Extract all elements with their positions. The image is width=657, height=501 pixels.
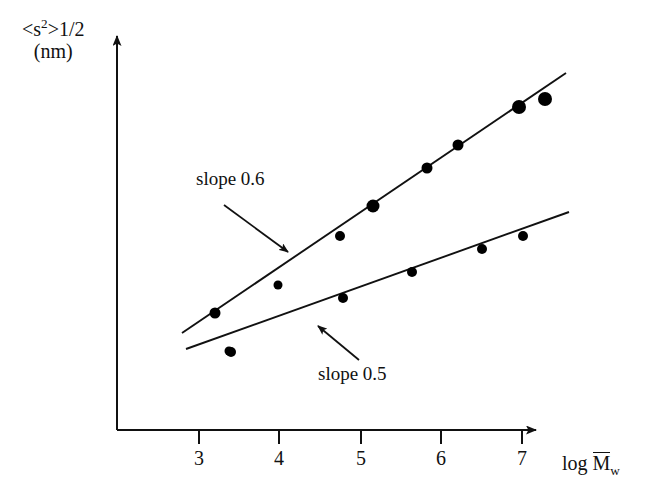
- data-point: [422, 163, 433, 174]
- data-point: [512, 100, 526, 114]
- x-tick-label-3: 3: [186, 447, 212, 469]
- figure-container: <s2>1/2 (nm) log Mw 3 4 5 6 7 slope 0.6 …: [0, 0, 657, 501]
- y-axis-label: <s2>1/2 (nm): [22, 18, 85, 63]
- y-axis-label-main: <s2>1/2: [22, 18, 85, 40]
- data-point: [274, 281, 283, 290]
- data-series-slope-0-6: [210, 92, 553, 356]
- x-tick-label-6: 6: [428, 447, 454, 469]
- data-point: [538, 92, 552, 106]
- data-point: [453, 140, 464, 151]
- trend-line-slope-0-5: [186, 212, 569, 349]
- data-point: [367, 200, 380, 213]
- annotation-slope-0-6: slope 0.6: [196, 168, 265, 189]
- data-point: [518, 231, 528, 241]
- data-point: [338, 293, 348, 303]
- x-axis-label-prefix: log: [562, 452, 593, 474]
- x-axis-ticks: [199, 430, 522, 444]
- y-axis-label-exponent: 2: [41, 16, 48, 31]
- annotation-arrow-lower: [318, 326, 359, 360]
- x-tick-label-7: 7: [509, 447, 535, 469]
- data-series-slope-0-5: [226, 231, 528, 357]
- plot-canvas: [0, 0, 657, 501]
- x-tick-label-5: 5: [348, 447, 374, 469]
- data-point: [335, 231, 345, 241]
- data-point: [226, 347, 236, 357]
- data-point: [210, 308, 221, 319]
- data-point: [477, 244, 487, 254]
- x-axis-label-symbol: M: [593, 452, 611, 473]
- data-point: [407, 267, 417, 277]
- x-tick-label-4: 4: [266, 447, 292, 469]
- annotation-arrow-upper: [224, 205, 288, 252]
- annotation-slope-0-5: slope 0.5: [318, 363, 387, 384]
- x-axis-label: log Mw: [562, 452, 620, 474]
- y-axis-unit-label: (nm): [22, 40, 85, 62]
- x-axis-label-subscript: w: [610, 463, 620, 478]
